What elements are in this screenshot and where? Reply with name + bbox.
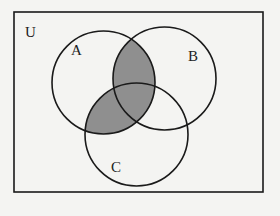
set-a-label: A <box>71 42 82 58</box>
set-c-label: C <box>111 159 121 175</box>
venn-svg: U A B C <box>0 0 280 216</box>
set-b-label: B <box>188 48 198 64</box>
universe-label: U <box>25 24 36 40</box>
venn-diagram: U A B C <box>0 0 280 216</box>
